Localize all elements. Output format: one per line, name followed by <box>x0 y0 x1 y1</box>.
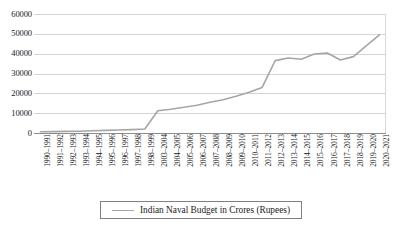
x-axis-tick-label: 2020–2021 <box>383 134 391 167</box>
x-axis-tick-label: 2004–2005 <box>174 134 182 167</box>
x-axis-tick-label: 1997–1998 <box>135 134 143 167</box>
x-axis-tick-label: 2006–2007 <box>200 134 208 167</box>
x-axis-tick-label: 2009–2010 <box>239 134 247 167</box>
x-axis-labels: 1990–19911991–19921992–19931993–19941994… <box>34 134 386 192</box>
x-axis-tick-label: 2016–2017 <box>331 134 339 167</box>
x-axis-tick-label: 2012–2013 <box>278 134 286 167</box>
chart-figure: 6000050000400003000020000100000 1990–199… <box>0 0 395 231</box>
x-axis-tick-label: 1993–1994 <box>83 134 91 167</box>
y-axis-labels: 6000050000400003000020000100000 <box>0 0 32 145</box>
legend-label: Indian Naval Budget in Crores (Rupees) <box>140 205 290 215</box>
y-axis-tick-label: 40000 <box>0 49 32 58</box>
x-axis-tick-label: 2008–2009 <box>226 134 234 167</box>
y-axis-tick-label: 60000 <box>0 10 32 19</box>
x-axis-tick-label: 2010–2011 <box>252 134 260 167</box>
y-axis-tick-label: 0 <box>0 129 32 138</box>
x-axis-tick-label: 2003–2004 <box>161 134 169 167</box>
x-axis-tick-label: 1996–1997 <box>122 134 130 167</box>
x-axis-tick-label: 2013–2014 <box>291 134 299 167</box>
legend-line-swatch <box>112 210 134 211</box>
line-series-indian-naval-budget <box>34 14 386 133</box>
y-axis-tick-label: 30000 <box>0 69 32 78</box>
y-axis-tick-label: 20000 <box>0 89 32 98</box>
x-axis-tick-label: 2005–2006 <box>187 134 195 167</box>
x-axis-tick-label: 1990–1991 <box>44 134 52 167</box>
y-axis-tick-label: 10000 <box>0 109 32 118</box>
series-polyline <box>41 35 380 132</box>
x-axis-tick-label: 2017–2018 <box>344 134 352 167</box>
chart-legend: Indian Naval Budget in Crores (Rupees) <box>100 201 302 219</box>
x-axis-tick-label: 1994–1995 <box>96 134 104 167</box>
plot-area <box>34 14 386 133</box>
x-axis-tick-label: 1992–1993 <box>70 134 78 167</box>
y-axis-tick-label: 50000 <box>0 29 32 38</box>
x-axis-tick-label: 1995–1996 <box>109 134 117 167</box>
x-axis-tick-label: 1991–1992 <box>57 134 65 167</box>
x-axis-tick-label: 2014–2015 <box>304 134 312 167</box>
x-axis-tick-label: 2015–2016 <box>317 134 325 167</box>
x-axis-tick-label: 2007–2008 <box>213 134 221 167</box>
x-axis-tick-label: 2018–2019 <box>357 134 365 167</box>
x-axis-tick-label: 2019–2020 <box>370 134 378 167</box>
x-axis-tick-label: 1998–1999 <box>148 134 156 167</box>
x-axis-tick-label: 2011–2012 <box>265 134 273 167</box>
